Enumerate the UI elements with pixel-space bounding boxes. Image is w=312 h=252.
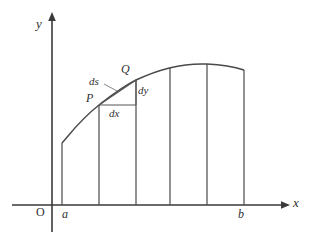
upper-bound-label-b: b [238,208,244,220]
x-axis-arrowhead-icon [281,201,290,209]
y-axis-arrowhead-icon [48,12,56,21]
differential-label-dy: dy [138,85,148,96]
figure-canvas: y x O a b P Q ds dx dy [0,0,312,252]
origin-label: O [36,206,45,218]
differential-label-dx: dx [109,108,119,119]
differential-label-ds: ds [89,76,99,87]
diagram-svg [0,0,312,252]
point-label-p: P [86,92,93,104]
chord-ds-segment [99,80,136,105]
ds-leader-line [104,84,117,91]
x-axis-label: x [293,196,299,209]
y-axis-label: y [36,17,42,30]
point-label-q: Q [121,63,130,75]
lower-bound-label-a: a [62,208,68,220]
